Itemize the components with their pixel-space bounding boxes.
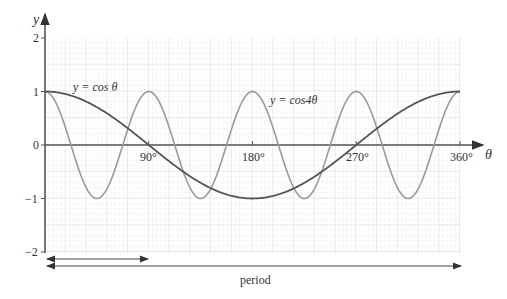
period-label: period	[240, 274, 271, 286]
x-tick-label-270: 270°	[346, 151, 369, 163]
x-tick-label-180: 180°	[242, 151, 265, 163]
y-tick-label-0: 0	[33, 139, 39, 151]
y-tick-label-m2: −2	[25, 246, 38, 258]
x-tick-label-360: 360°	[450, 151, 473, 163]
cos-4theta-label: y = cos4θ	[270, 94, 317, 106]
y-axis-label: y	[33, 13, 39, 27]
y-tick-label-m1: −1	[25, 193, 38, 205]
x-axis-label: θ	[485, 148, 492, 162]
y-tick-label-1: 1	[33, 86, 39, 98]
cos-theta-label: y = cos θ	[73, 81, 117, 93]
y-tick-label-2: 2	[33, 32, 39, 44]
x-tick-label-90: 90°	[140, 151, 157, 163]
